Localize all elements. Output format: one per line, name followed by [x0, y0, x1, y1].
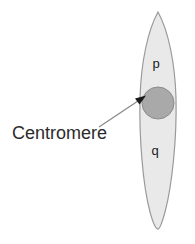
diagram-canvas: p q Centromere — [0, 0, 195, 244]
q-arm-label: q — [151, 143, 158, 158]
chromosome-body — [140, 12, 176, 229]
chromosome-body-group — [140, 12, 176, 229]
p-arm-label: p — [152, 56, 159, 71]
chromosome-diagram: p q Centromere — [0, 0, 195, 244]
centromere-callout-label: Centromere — [12, 123, 107, 143]
centromere-circle — [142, 87, 174, 119]
